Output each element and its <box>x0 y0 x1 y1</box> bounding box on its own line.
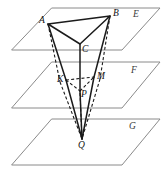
vertex-label-k: K <box>57 75 63 85</box>
segment-ak-solid <box>48 24 66 80</box>
triangle-abc <box>48 16 110 44</box>
vertex-label-m: M <box>97 72 105 82</box>
geometry-figure: A B C K M P Q E F G <box>0 0 166 171</box>
vertex-label-q: Q <box>78 141 85 151</box>
plane-label-f: F <box>131 66 137 76</box>
vertex-label-a: A <box>39 16 45 26</box>
plane-label-g: G <box>129 122 136 132</box>
plane-label-e: E <box>133 10 139 20</box>
vertex-label-c: C <box>82 45 88 55</box>
vertex-label-p: P <box>81 90 87 100</box>
plane-f-outline <box>12 62 160 108</box>
vertex-label-b: B <box>113 9 119 19</box>
segment-mq-dashed <box>82 79 100 139</box>
